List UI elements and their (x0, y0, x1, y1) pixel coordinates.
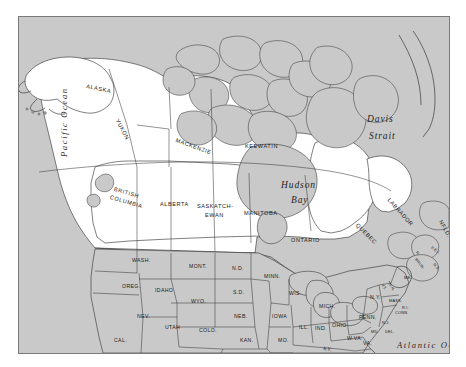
map-frame: .lnd-w{fill:#ffffff;stroke:#3a3a3a;strok… (18, 16, 450, 354)
greenland-edge (399, 31, 435, 137)
map-page: .lnd-w{fill:#ffffff;stroke:#3a3a3a;strok… (0, 0, 466, 367)
map-graphic: .lnd-w{fill:#ffffff;stroke:#3a3a3a;strok… (19, 17, 449, 353)
quebec-labrador (308, 138, 412, 233)
alaska-landmass (19, 57, 114, 114)
southeast-coast (371, 349, 375, 353)
